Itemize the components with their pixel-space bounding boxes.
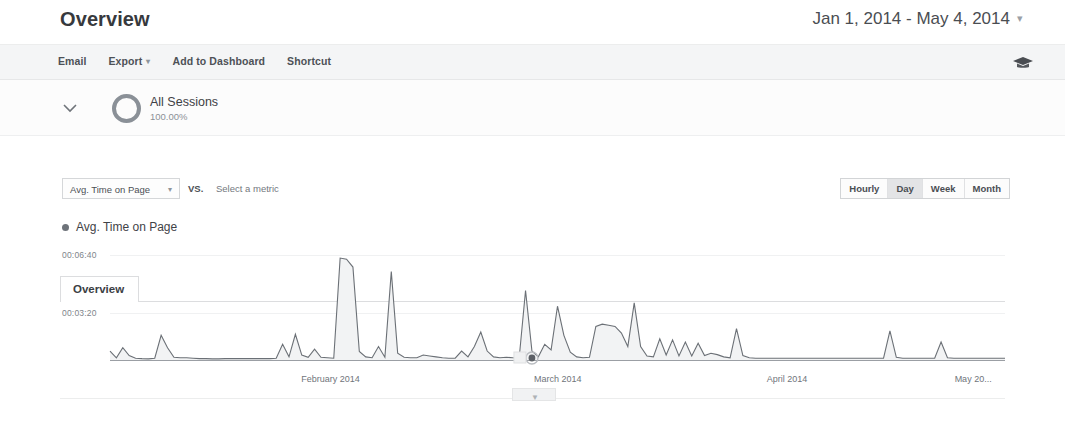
chart-plot-area[interactable] [60, 244, 1010, 369]
chevron-down-icon: ▾ [168, 185, 172, 194]
x-axis-tick-may: May 20... [955, 374, 992, 384]
vs-label: VS. [188, 183, 203, 194]
x-axis-tick-february: February 2014 [301, 374, 360, 384]
scrubber-handle-icon[interactable]: ▼ [512, 388, 556, 401]
toolbar-items: Email Export▾ Add to Dashboard Shortcut [58, 55, 331, 67]
legend-color-dot [62, 224, 69, 231]
segment-bar: All Sessions 100.00% [0, 80, 1065, 136]
x-axis-tick-april: April 2014 [767, 374, 808, 384]
metric-controls-row: Avg. Time on Page ▾ VS. Select a metric … [0, 178, 1065, 208]
hover-tooltip-box [514, 352, 526, 363]
granularity-week[interactable]: Week [923, 179, 965, 198]
shortcut-button[interactable]: Shortcut [287, 55, 331, 67]
granularity-month[interactable]: Month [965, 179, 1010, 198]
add-to-dashboard-button[interactable]: Add to Dashboard [172, 55, 265, 67]
report-toolbar: Email Export▾ Add to Dashboard Shortcut [0, 44, 1065, 80]
segment-percent: 100.00% [150, 111, 188, 122]
x-axis-tick-march: March 2014 [534, 374, 582, 384]
email-button[interactable]: Email [58, 55, 87, 67]
add-to-dashboard-label: Add to Dashboard [172, 55, 265, 67]
graduation-cap-icon[interactable] [1011, 55, 1035, 70]
export-label: Export [109, 55, 143, 67]
granularity-day[interactable]: Day [888, 179, 922, 198]
segment-donut-icon [112, 94, 141, 123]
scrubber-tick-icon: ▼ [531, 393, 539, 402]
legend-label: Avg. Time on Page [76, 220, 177, 234]
primary-metric-label: Avg. Time on Page [70, 184, 150, 195]
shortcut-label: Shortcut [287, 55, 331, 67]
chevron-down-icon: ▾ [146, 57, 150, 66]
email-label: Email [58, 55, 87, 67]
date-range-label: Jan 1, 2014 - May 4, 2014 [812, 9, 1010, 28]
date-range-picker[interactable]: Jan 1, 2014 - May 4, 2014▾ [812, 9, 1023, 29]
chevron-down-icon: ▾ [1017, 12, 1023, 24]
chevron-down-icon[interactable] [60, 98, 80, 118]
secondary-metric-select[interactable]: Select a metric [216, 183, 279, 194]
chart-legend: Avg. Time on Page [62, 220, 177, 234]
primary-metric-select[interactable]: Avg. Time on Page ▾ [62, 178, 180, 199]
export-button[interactable]: Export▾ [109, 55, 151, 67]
page-header: Overview Jan 1, 2014 - May 4, 2014▾ [0, 0, 1065, 44]
granularity-hourly[interactable]: Hourly [841, 179, 888, 198]
selected-point-marker[interactable] [529, 355, 536, 362]
page-title: Overview [60, 8, 150, 31]
tabs-row: Overview [0, 136, 1065, 166]
timeline-chart[interactable]: 00:06:40 00:03:20 February 2014 March 20… [0, 244, 1065, 394]
granularity-toggle-group: Hourly Day Week Month [840, 178, 1010, 199]
segment-name[interactable]: All Sessions [150, 95, 218, 109]
